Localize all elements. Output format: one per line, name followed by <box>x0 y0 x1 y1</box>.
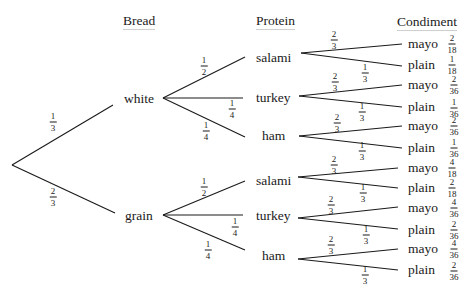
prob-white-turkey: 14 <box>229 99 236 120</box>
leaf-white-ham-plain: plain <box>408 141 435 155</box>
joint-grain-ham-plain: 236 <box>450 261 459 282</box>
branch-grain-salami-plain <box>298 177 398 188</box>
prob-grain-salami: 12 <box>201 177 208 198</box>
leaf-white-ham-mayo: mayo <box>408 119 438 133</box>
branch-root-white <box>12 105 113 165</box>
prob-grain-salami-mayo: 23 <box>331 155 338 176</box>
prob-white-ham-mayo: 23 <box>334 113 341 134</box>
prob-grain: 23 <box>50 187 57 208</box>
tree-branches <box>0 0 466 293</box>
joint-white-ham-plain: 136 <box>450 138 459 159</box>
node-grain-turkey: turkey <box>256 209 291 223</box>
header-bread: Bread <box>123 14 155 30</box>
branch-grain-salami-mayo <box>298 168 398 177</box>
branch-grain-turkey-plain <box>298 218 398 229</box>
leaf-grain-ham-plain: plain <box>408 263 435 277</box>
branch-grain-turkey-mayo <box>298 207 398 218</box>
leaf-white-salami-mayo: mayo <box>408 37 438 51</box>
prob-white-ham: 14 <box>203 121 210 142</box>
leaf-grain-salami-mayo: mayo <box>408 161 438 175</box>
branch-grain-ham-plain <box>298 259 398 270</box>
branch-white-salami-mayo <box>301 44 402 53</box>
branch-grain-ham-mayo <box>298 249 398 259</box>
leaf-grain-salami-plain: plain <box>408 181 435 195</box>
joint-grain-ham-mayo: 436 <box>450 239 459 260</box>
prob-white-turkey-plain: 13 <box>359 102 366 123</box>
branch-white-salami-plain <box>301 53 402 66</box>
branch-white-ham-mayo <box>299 126 402 136</box>
leaf-white-turkey-mayo: mayo <box>408 78 438 92</box>
prob-white-turkey-mayo: 23 <box>332 72 339 93</box>
prob-grain-turkey-plain: 13 <box>363 225 370 246</box>
header-protein: Protein <box>256 14 295 30</box>
branch-root-grain <box>12 165 115 213</box>
node-white-turkey: turkey <box>256 91 291 105</box>
joint-white-turkey-mayo: 236 <box>450 75 459 96</box>
joint-grain-turkey-mayo: 436 <box>450 198 459 219</box>
prob-white-ham-plain: 13 <box>359 141 366 162</box>
joint-white-salami-mayo: 218 <box>448 34 457 55</box>
leaf-grain-turkey-plain: plain <box>408 223 435 237</box>
prob-white-salami-mayo: 23 <box>331 30 338 51</box>
node-white-ham: ham <box>262 129 285 143</box>
leaf-white-salami-plain: plain <box>408 58 435 72</box>
branch-white-turkey-mayo <box>299 85 402 96</box>
probability-tree-diagram: Bread Protein Condiment white grain 13 2… <box>0 0 466 293</box>
node-grain-ham: ham <box>262 249 285 263</box>
prob-white: 13 <box>50 112 57 133</box>
joint-grain-salami-mayo: 418 <box>448 158 457 179</box>
prob-grain-turkey-mayo: 23 <box>328 195 335 216</box>
prob-grain-ham-plain: 13 <box>362 265 369 286</box>
node-grain: grain <box>125 209 153 223</box>
header-condiment: Condiment <box>397 15 457 31</box>
joint-white-salami-plain: 118 <box>448 55 457 76</box>
prob-grain-ham: 14 <box>205 240 212 261</box>
branch-white-ham-plain <box>299 136 402 148</box>
joint-grain-salami-plain: 218 <box>448 178 457 199</box>
prob-grain-ham-mayo: 23 <box>328 235 335 256</box>
prob-grain-turkey: 14 <box>232 217 239 238</box>
prob-grain-salami-plain: 13 <box>360 183 367 204</box>
leaf-white-turkey-plain: plain <box>408 100 435 114</box>
branch-white-turkey-plain <box>299 96 402 107</box>
prob-white-salami: 12 <box>201 56 208 77</box>
prob-white-salami-plain: 13 <box>362 63 369 84</box>
node-grain-salami: salami <box>256 174 291 188</box>
node-white-salami: salami <box>256 51 291 65</box>
node-white: white <box>124 92 154 106</box>
joint-white-ham-mayo: 236 <box>450 116 459 137</box>
leaf-grain-ham-mayo: mayo <box>408 242 438 256</box>
leaf-grain-turkey-mayo: mayo <box>408 201 438 215</box>
